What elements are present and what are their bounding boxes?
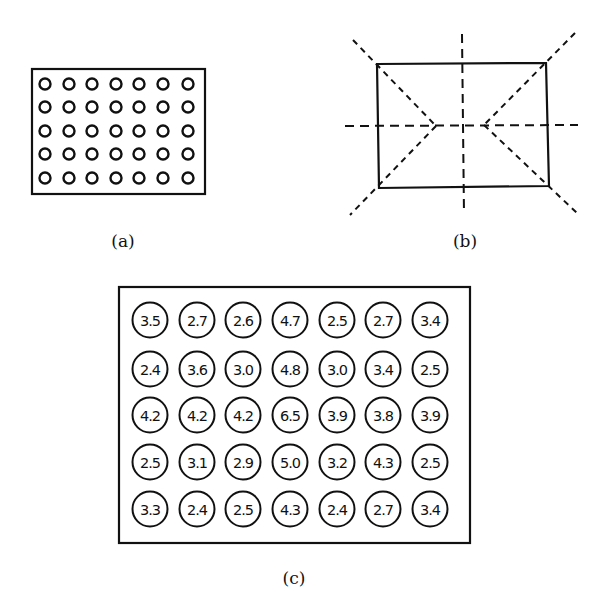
- panel-a: (a): [32, 69, 205, 251]
- panel-a-circle: [183, 79, 194, 90]
- panel-c-cell: 3.6: [180, 352, 215, 387]
- panel-b-diagonal-top-right: [484, 33, 575, 125]
- panel-a-circle: [111, 79, 122, 90]
- panel-c-value: 2.5: [420, 362, 440, 378]
- panel-a-circle: [111, 173, 122, 184]
- panel-c-cell: 2.4: [320, 492, 355, 527]
- panel-c-cell: 3.9: [320, 398, 355, 433]
- panel-c-cell: 2.7: [366, 492, 401, 527]
- panel-a-circle: [64, 149, 75, 160]
- panel-a-label: (a): [111, 231, 134, 251]
- panel-a-circle: [87, 102, 98, 113]
- panel-a-circle: [40, 173, 51, 184]
- panel-a-circle: [183, 126, 194, 137]
- panel-c-value: 6.5: [280, 408, 300, 424]
- panel-c-cell: 2.7: [366, 303, 401, 338]
- panel-c-cell: 4.8: [273, 352, 308, 387]
- panel-c-value: 3.5: [140, 313, 160, 329]
- panel-c-cell: 4.2: [226, 398, 261, 433]
- panel-c-value: 3.4: [373, 362, 394, 378]
- panel-a-circle: [183, 149, 194, 160]
- panel-c-value: 3.0: [233, 362, 254, 378]
- panel-c-value: 3.4: [420, 502, 441, 518]
- panel-b-diagonal-bottom-right: [484, 125, 577, 213]
- panel-b-horizontal-axis: [345, 125, 578, 126]
- panel-c-value: 3.3: [140, 502, 161, 518]
- panel-c-value: 3.4: [420, 313, 441, 329]
- panel-c-cell: 6.5: [273, 398, 308, 433]
- panel-c-cell: 3.4: [413, 303, 448, 338]
- panel-a-circle: [40, 79, 51, 90]
- panel-c-value: 2.5: [327, 313, 347, 329]
- panel-c-value: 2.5: [233, 502, 253, 518]
- panel-c-value: 2.9: [233, 455, 254, 471]
- panel-c-value: 3.8: [373, 408, 394, 424]
- panel-c-cell: 2.4: [180, 492, 215, 527]
- panel-a-circle: [64, 173, 75, 184]
- panel-c-value: 3.1: [187, 455, 207, 471]
- panel-a-circle: [40, 102, 51, 113]
- panel-c: 3.52.72.64.72.52.73.42.43.63.04.83.03.42…: [119, 287, 470, 588]
- panel-c-value: 2.6: [233, 313, 254, 329]
- panel-c-value: 4.3: [373, 455, 394, 471]
- panel-c-cell: 2.5: [133, 445, 168, 480]
- panel-c-value: 2.5: [420, 455, 440, 471]
- panel-c-cell: 2.6: [226, 303, 261, 338]
- panel-a-circle: [64, 102, 75, 113]
- panel-a-circle: [183, 102, 194, 113]
- panel-a-circle: [87, 126, 98, 137]
- panel-a-circle: [87, 79, 98, 90]
- panel-a-circle: [134, 149, 145, 160]
- panel-c-value: 3.9: [420, 408, 441, 424]
- panel-c-cell: 3.4: [366, 352, 401, 387]
- panel-c-cell: 3.3: [133, 492, 168, 527]
- panel-a-circle: [40, 126, 51, 137]
- panel-a-circle: [87, 173, 98, 184]
- panel-a-circle: [134, 126, 145, 137]
- panel-c-value: 4.3: [280, 502, 301, 518]
- panel-a-circle: [158, 79, 169, 90]
- panel-c-value: 4.2: [233, 408, 253, 424]
- panel-c-cell: 3.0: [320, 352, 355, 387]
- panel-a-circle: [158, 149, 169, 160]
- panel-c-cell: 3.8: [366, 398, 401, 433]
- panel-c-cell: 3.9: [413, 398, 448, 433]
- panel-c-label: (c): [283, 568, 306, 588]
- panel-c-cell: 3.2: [320, 445, 355, 480]
- panel-c-cell: 3.5: [133, 303, 168, 338]
- panel-c-value: 4.2: [140, 408, 160, 424]
- panel-a-circle: [40, 149, 51, 160]
- panel-a-circle-grid: [40, 79, 194, 184]
- panel-a-circle: [134, 173, 145, 184]
- panel-c-value: 4.2: [187, 408, 207, 424]
- panel-c-value: 2.4: [327, 502, 348, 518]
- panel-b-diagonal-top-left: [353, 40, 436, 126]
- panel-c-cell: 2.5: [226, 492, 261, 527]
- panel-c-cell: 5.0: [273, 445, 308, 480]
- panel-c-value: 4.7: [280, 313, 300, 329]
- panel-c-cell: 2.5: [413, 445, 448, 480]
- panel-a-circle: [134, 102, 145, 113]
- panel-c-value: 2.7: [373, 502, 393, 518]
- panel-c-cell: 2.5: [320, 303, 355, 338]
- panel-c-cell: 3.1: [180, 445, 215, 480]
- panel-a-circle: [87, 149, 98, 160]
- panel-a-circle: [158, 173, 169, 184]
- panel-c-cell: 4.2: [180, 398, 215, 433]
- panel-c-cell: 2.7: [180, 303, 215, 338]
- panel-c-cell: 2.9: [226, 445, 261, 480]
- panel-a-circle: [64, 79, 75, 90]
- panel-c-cell: 3.0: [226, 352, 261, 387]
- panel-c-value: 2.5: [140, 455, 160, 471]
- panel-c-value: 2.4: [140, 362, 161, 378]
- panel-a-circle: [111, 102, 122, 113]
- panel-c-value: 3.2: [327, 455, 347, 471]
- panel-c-value: 3.0: [327, 362, 348, 378]
- panel-a-circle: [134, 79, 145, 90]
- panel-c-cell: 4.2: [133, 398, 168, 433]
- panel-b-diagonal-bottom-left: [350, 126, 436, 215]
- panel-a-circle: [183, 173, 194, 184]
- figure-canvas: (a) (b) 3.52.72.64.72.52.73.42.43.63.04.…: [0, 0, 607, 598]
- panel-c-value: 3.6: [187, 362, 208, 378]
- panel-c-cell: 4.3: [366, 445, 401, 480]
